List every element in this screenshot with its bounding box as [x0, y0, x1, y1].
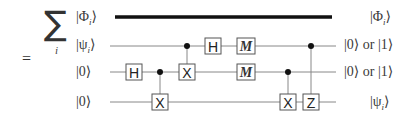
measurement-gate-2: M: [237, 64, 255, 80]
measurement-gate-1: M: [237, 38, 255, 54]
circuit-canvas: H X X H M M X Z: [0, 0, 410, 127]
hadamard-gate-1: H: [126, 64, 142, 81]
cnot-gate-1: X: [152, 69, 168, 111]
controlled-z-gate: Z: [303, 43, 319, 111]
svg-text:X: X: [283, 95, 293, 111]
hadamard-gate-2: H: [205, 38, 221, 55]
svg-text:M: M: [239, 65, 253, 80]
svg-text:X: X: [155, 95, 165, 111]
control-dot: [285, 69, 291, 75]
cnot-gate-3: X: [280, 69, 296, 111]
cnot-gate-2: X: [179, 43, 195, 81]
svg-text:H: H: [129, 65, 139, 81]
svg-text:Z: Z: [307, 95, 316, 111]
control-dot: [308, 43, 314, 49]
control-dot: [184, 43, 190, 49]
control-dot: [157, 69, 163, 75]
svg-text:X: X: [182, 65, 192, 81]
svg-text:H: H: [208, 39, 218, 55]
svg-text:M: M: [239, 39, 253, 54]
